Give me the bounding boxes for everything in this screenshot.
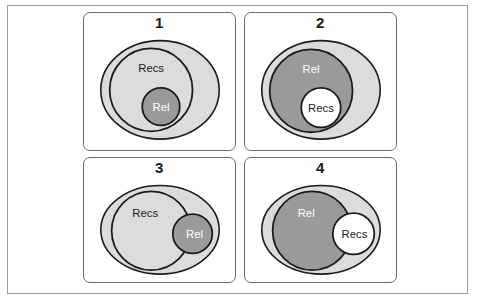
venn-diagram-4: Rel Recs <box>245 158 396 282</box>
set-label-rel-1: Rel <box>152 101 169 113</box>
figure-frame: 1 Recs Rel 2 Rel <box>7 5 468 294</box>
set-label-recs-1: Recs <box>138 62 164 74</box>
set-label-rel-3: Rel <box>186 228 203 240</box>
set-label-recs-2: Recs <box>308 102 334 114</box>
venn-panel-1[interactable]: 1 Recs Rel <box>83 12 236 151</box>
panel-grid: 1 Recs Rel 2 Rel <box>8 6 467 293</box>
venn-panel-4[interactable]: 4 Rel Recs <box>244 157 397 283</box>
set-label-rel-2: Rel <box>303 63 320 75</box>
set-label-recs-3: Recs <box>132 207 158 219</box>
venn-diagram-2: Rel Recs <box>245 13 396 150</box>
set-label-recs-4: Recs <box>342 228 368 240</box>
venn-diagram-3: Recs Rel <box>84 158 235 282</box>
venn-diagram-1: Recs Rel <box>84 13 235 150</box>
venn-panel-2[interactable]: 2 Rel Recs <box>244 12 397 151</box>
venn-panel-3[interactable]: 3 Recs Rel <box>83 157 236 283</box>
set-label-rel-4: Rel <box>298 207 315 219</box>
